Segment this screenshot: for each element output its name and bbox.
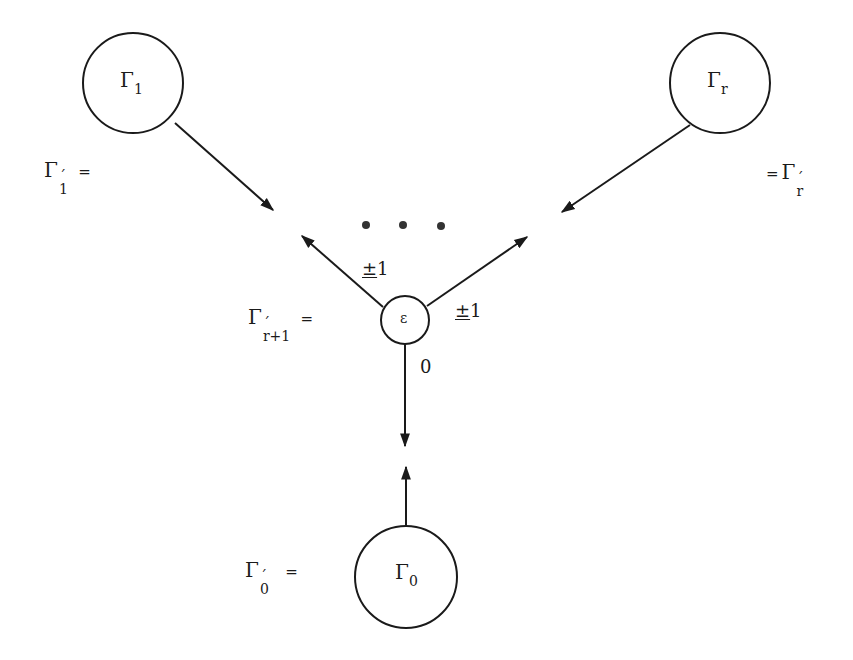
arrow-gammar-in xyxy=(562,125,690,212)
arrow-epsilon-right xyxy=(427,237,527,306)
gamma1-prime-equation: Γ´1 = xyxy=(44,158,91,195)
ellipsis-dots xyxy=(362,221,445,230)
gammar-label: Γr xyxy=(707,68,728,92)
graph-diagram xyxy=(0,0,853,660)
arrow-gamma1-in xyxy=(175,123,273,210)
edge-label-right: ±1 xyxy=(455,300,482,321)
gammar1-prime-equation: Γ´r+1 = xyxy=(248,305,313,342)
edge-label-down: 0 xyxy=(420,356,431,377)
edge-label-left: ±1 xyxy=(362,258,389,279)
gamma0-label: Γ0 xyxy=(395,560,418,584)
gamma1-label: Γ1 xyxy=(120,68,143,92)
gamma0-prime-equation: Γ´0 = xyxy=(245,558,298,595)
gammar-prime-equation: =Γ´r xyxy=(766,160,803,197)
epsilon-label: ε xyxy=(400,310,407,326)
